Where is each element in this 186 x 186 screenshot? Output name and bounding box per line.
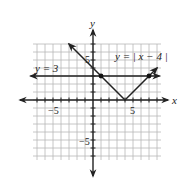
x-tick-label-5: 5 (130, 105, 135, 116)
x-tick-label-neg5: −5 (48, 105, 59, 116)
y-axis-label: y (89, 17, 95, 29)
intersection-point (147, 74, 152, 79)
abs-function-label: y = | x − 4 | (114, 50, 168, 62)
constant-function-label: y = 3 (34, 62, 59, 74)
y-tick-label-5: 5 (85, 54, 90, 65)
intersection-point (99, 74, 104, 79)
x-axis-label: x (171, 94, 177, 106)
coordinate-plane: y x −5 5 5 −5 y = | x − 4 | y = 3 (0, 0, 186, 186)
y-tick-label-neg5: −5 (79, 136, 90, 147)
